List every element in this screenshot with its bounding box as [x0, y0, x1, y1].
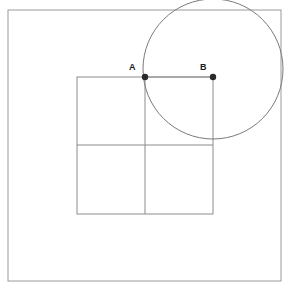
point-a-marker [142, 74, 148, 80]
point-b-label: B [200, 63, 207, 72]
geometry-canvas [0, 0, 298, 294]
point-b-marker [210, 74, 216, 80]
point-a-label: A [129, 63, 136, 72]
geometry-figure: A B [0, 0, 298, 294]
